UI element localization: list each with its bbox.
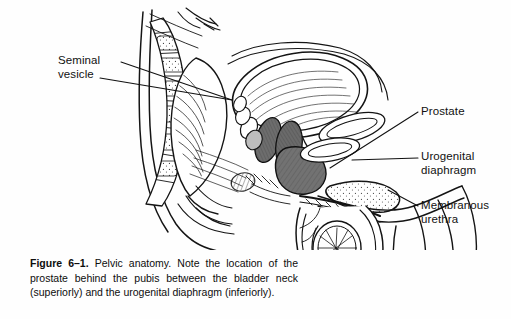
label-seminal-vesicle: Seminal vesicle [58, 54, 100, 81]
scrotum-and-testis [296, 206, 383, 250]
figure-page: Seminal vesicle Prostate Urogenital diap… [0, 0, 511, 319]
anatomy-figure: Seminal vesicle Prostate Urogenital diap… [0, 0, 511, 250]
label-membranous-urethra: Membranous urethra [421, 199, 489, 226]
leader-urogenital-diaphragm [352, 158, 418, 160]
sacral-promontory-lines [178, 8, 220, 30]
rectum [171, 58, 232, 214]
levator-ani-sling [178, 196, 234, 234]
figure-caption: Figure 6–1. Pelvic anatomy. Note the loc… [30, 256, 298, 300]
figure-number: Figure 6–1. [30, 257, 89, 269]
label-urogenital-diaphragm: Urogenital diaphragm [421, 150, 476, 177]
label-prostate: Prostate [421, 105, 465, 119]
